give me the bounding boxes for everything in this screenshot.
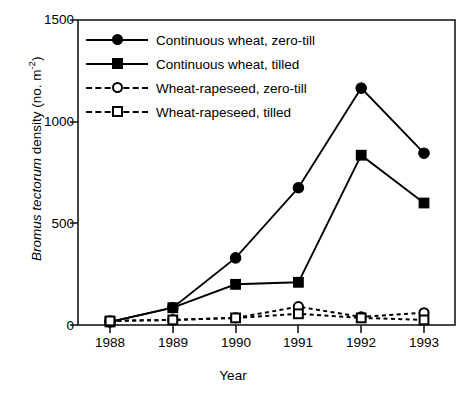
data-point bbox=[356, 83, 366, 93]
data-point bbox=[168, 316, 177, 325]
legend-label-3: Wheat-rapeseed, tilled bbox=[148, 105, 291, 120]
legend-key-filled-square bbox=[86, 54, 148, 74]
data-point bbox=[356, 150, 366, 160]
x-tick-label-1991: 1991 bbox=[268, 336, 328, 350]
legend-item-continuous-wheat-tilled: Continuous wheat, tilled bbox=[86, 52, 356, 76]
data-point bbox=[294, 309, 303, 318]
legend-label-2: Wheat-rapeseed, zero-till bbox=[148, 81, 307, 96]
data-point bbox=[419, 198, 429, 208]
series-line bbox=[110, 314, 424, 321]
data-point bbox=[231, 313, 240, 322]
data-point bbox=[420, 316, 429, 325]
x-tick-label-1988: 1988 bbox=[80, 336, 140, 350]
x-tick-marks bbox=[110, 325, 424, 333]
data-point bbox=[106, 317, 115, 326]
x-axis-tick-labels: 1988 1989 1990 1991 1992 1993 bbox=[0, 336, 466, 356]
legend-key-filled-circle bbox=[86, 30, 148, 50]
legend-key-open-circle bbox=[86, 78, 148, 98]
data-point bbox=[419, 148, 429, 158]
legend-item-wheat-rapeseed-zero-till: Wheat-rapeseed, zero-till bbox=[86, 76, 356, 100]
data-point bbox=[168, 303, 178, 313]
chart-figure: Bromus tectorum density (no. m-2) 1500 1… bbox=[0, 0, 466, 399]
legend-item-continuous-wheat-zero-till: Continuous wheat, zero-till bbox=[86, 28, 356, 52]
y-tick-marks bbox=[70, 20, 78, 325]
legend-key-open-square bbox=[86, 102, 148, 122]
legend-item-wheat-rapeseed-tilled: Wheat-rapeseed, tilled bbox=[86, 100, 356, 124]
legend-label-1: Continuous wheat, tilled bbox=[148, 57, 299, 72]
x-tick-label-1993: 1993 bbox=[394, 336, 454, 350]
series-line bbox=[110, 155, 424, 322]
x-tick-label-1992: 1992 bbox=[331, 336, 391, 350]
x-tick-label-1989: 1989 bbox=[143, 336, 203, 350]
x-tick-label-1990: 1990 bbox=[206, 336, 266, 350]
data-point bbox=[293, 183, 303, 193]
data-point bbox=[231, 280, 241, 290]
data-point bbox=[357, 313, 366, 322]
data-point bbox=[294, 278, 304, 288]
legend-label-0: Continuous wheat, zero-till bbox=[148, 33, 315, 48]
series-2 bbox=[105, 150, 429, 326]
chart-legend: Continuous wheat, zero-till Continuous w… bbox=[86, 28, 356, 124]
series-3 bbox=[105, 302, 428, 325]
x-axis-title: Year bbox=[0, 368, 466, 383]
data-point bbox=[230, 253, 240, 263]
